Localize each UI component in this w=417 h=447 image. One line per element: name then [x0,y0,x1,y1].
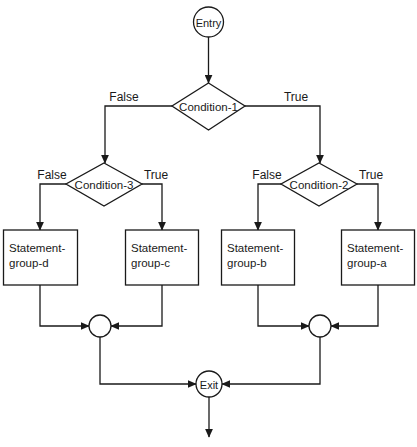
condition-2-label: Condition-2 [290,179,349,191]
statement-group-b-line1: Statement- [227,242,283,254]
statement-group-a-line1: Statement- [347,242,403,254]
exit-label: Exit [200,379,218,391]
condition-2-true-label: True [359,168,384,182]
edge-condition2-true [357,184,378,230]
edge-sgd-to-merge-left [40,285,89,326]
entry-label: Entry [196,17,222,29]
condition-3-label: Condition-3 [75,179,134,191]
edge-condition1-false [105,106,172,163]
condition-1-label: Condition-1 [179,101,238,113]
edge-merge-left-to-exit [100,337,196,384]
statement-group-a-line2: group-a [347,257,387,269]
edge-condition3-true [142,184,162,230]
statement-group-d-line2: group-d [9,257,49,269]
condition-3-false-label: False [37,168,67,182]
edge-merge-right-to-exit [222,337,320,384]
condition-2-false-label: False [252,168,282,182]
condition-1-true-label: True [284,90,309,104]
statement-group-b-line2: group-b [227,257,267,269]
edge-condition3-false [40,184,66,230]
edge-sgb-to-merge-right [258,285,309,326]
merge-right-node[interactable] [309,315,331,337]
edge-sga-to-merge-right [331,285,378,326]
statement-group-c-line2: group-c [131,257,170,269]
statement-group-c-line1: Statement- [131,242,187,254]
condition-3-true-label: True [144,168,169,182]
merge-left-node[interactable] [89,315,111,337]
statement-group-d-line1: Statement- [9,242,65,254]
edge-condition1-true [245,106,320,163]
condition-1-false-label: False [109,90,139,104]
edge-condition2-false [258,184,281,230]
edge-sgc-to-merge-left [111,285,162,326]
flowchart-canvas: Entry Condition-1 False True Condition-3… [0,0,417,447]
